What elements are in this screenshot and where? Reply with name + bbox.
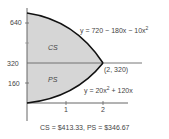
equilibrium-point-label: (2, 320) [104, 66, 128, 74]
supply-equation-label: y = 20x2 + 120x [84, 85, 133, 95]
surplus-caption: CS = $413.33, PS = $346.67 [40, 124, 130, 131]
surplus-chart: 640 320 160 1 2 CS PS y = 720 − 180x − 1… [0, 0, 169, 139]
y-tick-label-640: 640 [10, 19, 22, 26]
y-tick-label-160: 160 [8, 80, 20, 87]
ps-region-label: PS [48, 76, 58, 83]
y-tick-label-320: 320 [7, 60, 19, 67]
cs-region-label: CS [48, 44, 58, 51]
demand-equation-label: y = 720 − 180x − 10x2 [80, 25, 149, 35]
x-tick-label-1: 1 [64, 106, 68, 113]
x-tick-label-2: 2 [101, 106, 105, 113]
